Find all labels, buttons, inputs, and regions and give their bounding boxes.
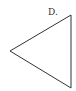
diagram-canvas: D. — [0, 0, 76, 91]
triangle-figure — [0, 0, 76, 91]
option-label: D. — [48, 7, 58, 17]
triangle-shape — [10, 15, 71, 88]
